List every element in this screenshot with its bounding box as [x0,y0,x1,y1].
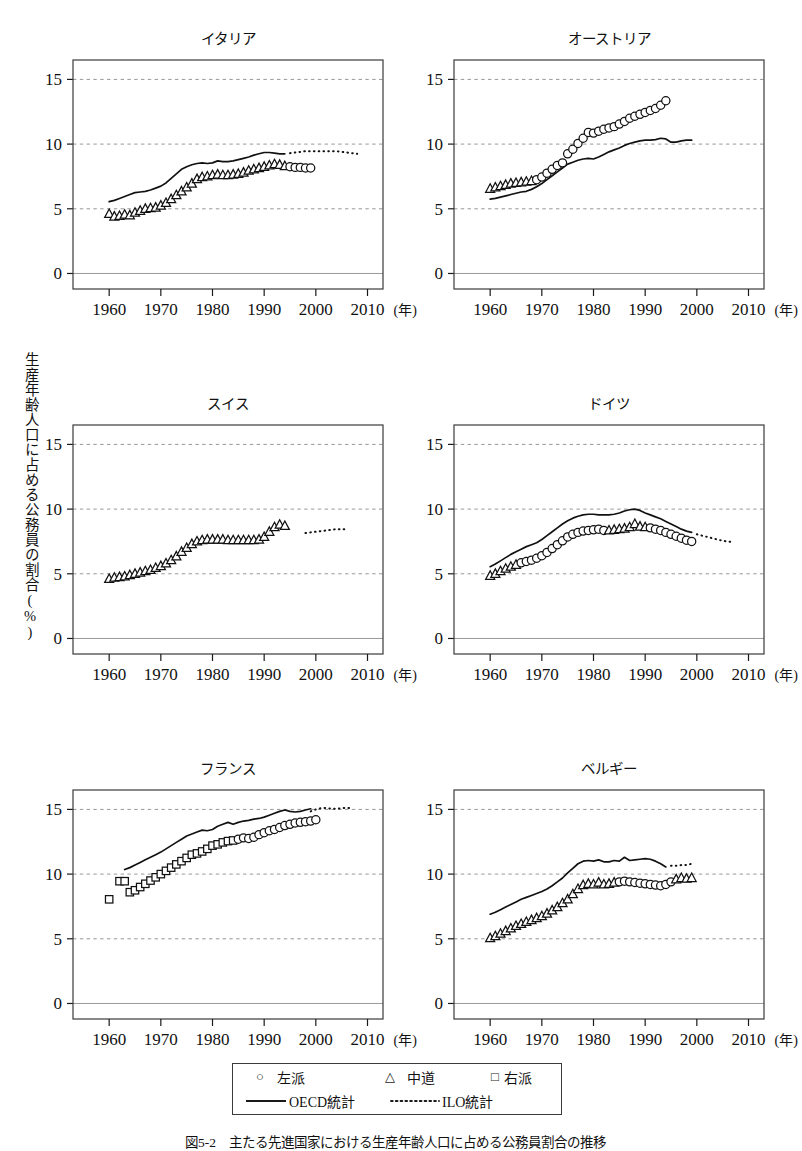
series-markers-triangle [105,159,290,220]
circle-marker-icon: ○ [243,1069,277,1085]
y-tick-label: 15 [45,435,62,454]
y-tick-label: 10 [45,500,62,519]
y-tick-label: 5 [435,200,444,219]
solid-line-icon [243,1092,289,1110]
x-axis-unit-label: (年) [775,668,799,684]
square-marker-icon: □ [486,1069,504,1085]
legend-label-centrist: 中道 [407,1067,435,1087]
x-tick-label: 1960 [92,665,126,684]
x-tick-label: 2000 [680,300,714,319]
legend-label-right-wing: 右派 [504,1067,532,1087]
x-tick-label: 2010 [351,1030,385,1049]
series-markers-circle [615,877,675,890]
y-tick-label: 0 [435,264,444,283]
x-tick-label: 1970 [144,300,178,319]
y-tick-label: 15 [426,435,443,454]
y-tick-label: 15 [426,800,443,819]
x-tick-label: 1960 [473,665,507,684]
figure-caption: 図5-2 主たる先進国家における生産年齢人口に占める公務員割合の推移 [0,1131,791,1151]
series-line-dotted [306,529,347,533]
x-tick-label: 2000 [299,665,333,684]
x-tick-label: 2010 [732,300,766,319]
y-tick-label: 0 [435,994,444,1013]
legend-label-ilo: ILO統計 [442,1091,493,1111]
y-tick-label: 10 [426,500,443,519]
legend-label-oecd: OECD統計 [289,1091,355,1111]
y-tick-label: 5 [54,200,63,219]
x-tick-label: 1980 [196,665,230,684]
dotted-line-icon [388,1092,442,1110]
y-tick-label: 10 [426,135,443,154]
plot-area-belgium: 051015196019701980199020002010(年) [409,757,802,1059]
y-tick-label: 0 [54,629,63,648]
y-tick-label: 10 [45,135,62,154]
series-line-dotted [290,151,357,154]
x-tick-label: 1990 [247,665,281,684]
y-tick-label: 15 [45,70,62,89]
series-line-solid [490,509,692,567]
series-markers-triangle [486,560,521,579]
series-markers-circle [286,163,315,172]
y-tick-label: 10 [426,865,443,884]
y-tick-label: 0 [435,629,444,648]
x-tick-label: 1980 [196,1030,230,1049]
series-markers-triangle [672,873,697,883]
x-tick-label: 1960 [92,1030,126,1049]
series-line-solid [490,138,692,199]
y-tick-label: 0 [54,994,63,1013]
legend-item-left-wing: ○ 左派 [243,1067,373,1087]
x-tick-label: 1970 [525,665,559,684]
x-tick-label: 2000 [680,1030,714,1049]
x-tick-label: 2010 [732,1030,766,1049]
x-axis-unit-label: (年) [775,1033,799,1049]
x-tick-label: 1990 [628,300,662,319]
series-markers-triangle [486,878,619,942]
triangle-marker-icon: △ [373,1069,407,1085]
x-tick-label: 1960 [473,1030,507,1049]
series-markers-triangle [604,519,649,534]
x-tick-label: 1980 [577,1030,611,1049]
legend-item-ilo: ILO統計 [388,1091,493,1111]
x-tick-label: 1990 [247,1030,281,1049]
plot-area-germany: 051015196019701980199020002010(年) [409,392,802,694]
series-line-dotted [697,534,733,542]
x-axis-unit-label: (年) [775,303,799,319]
series-line-solid [125,809,311,870]
x-tick-label: 1970 [525,1030,559,1049]
x-tick-label: 1980 [577,665,611,684]
x-tick-label: 2000 [680,665,714,684]
legend-item-right-wing: □ 右派 [486,1067,532,1087]
y-tick-label: 5 [435,930,444,949]
x-tick-label: 2000 [299,1030,333,1049]
series-line-dotted [671,864,692,866]
legend-item-oecd: OECD統計 [243,1091,388,1111]
y-tick-label: 5 [54,565,63,584]
series-markers-circle [646,524,696,546]
x-tick-label: 2000 [299,300,333,319]
chart-legend: ○ 左派 △ 中道 □ 右派 OECD統計 [232,1063,562,1115]
series-markers-circle [517,525,608,567]
x-tick-label: 2010 [732,665,766,684]
x-tick-label: 1990 [247,300,281,319]
legend-item-centrist: △ 中道 [373,1067,486,1087]
x-tick-label: 1970 [144,1030,178,1049]
plot-area-switzerland: 051015196019701980199020002010(年) [28,392,428,694]
y-tick-label: 5 [54,930,63,949]
plot-area-france: 051015196019701980199020002010(年) [28,757,428,1059]
y-tick-label: 10 [45,865,62,884]
y-tick-label: 5 [435,565,444,584]
y-tick-label: 15 [426,70,443,89]
x-tick-label: 1990 [628,1030,662,1049]
x-tick-label: 1970 [144,665,178,684]
x-tick-label: 1980 [577,300,611,319]
series-markers-triangle [105,520,290,583]
y-tick-label: 15 [45,800,62,819]
x-tick-label: 1960 [473,300,507,319]
x-tick-label: 2010 [351,665,385,684]
x-tick-label: 1960 [92,300,126,319]
x-tick-label: 1990 [628,665,662,684]
x-tick-label: 1980 [196,300,230,319]
x-tick-label: 1970 [525,300,559,319]
plot-area-austria: 051015196019701980199020002010(年) [409,27,802,329]
